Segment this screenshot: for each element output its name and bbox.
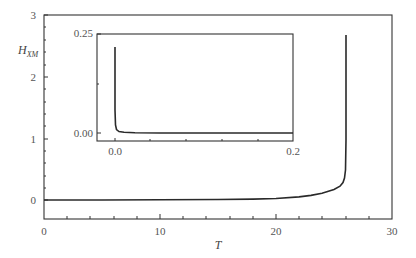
inset-y-tick-label: 0.25	[74, 27, 94, 39]
inset-plot-frame	[97, 34, 293, 141]
x-tick-label: 30	[387, 225, 399, 237]
inset-y-ticks	[97, 34, 101, 133]
y-axis-label-subscript: XM	[26, 50, 40, 59]
inset-curve	[115, 47, 293, 133]
y-axis-label: HXM	[17, 43, 40, 59]
x-tick-label: 0	[41, 225, 47, 237]
main-y-ticks	[44, 15, 48, 200]
main-x-tick-labels: 0 10 20 30	[41, 225, 398, 237]
y-tick-label: 2	[31, 71, 37, 83]
main-curve	[44, 35, 346, 200]
x-axis-label: T	[215, 238, 223, 252]
main-x-ticks	[67, 214, 369, 219]
chart: 0 1 2 3 0 10 20 30 HXM T 0.25 0.00 0.0 0…	[0, 0, 416, 258]
x-tick-label: 20	[271, 225, 283, 237]
main-plot-frame	[44, 15, 392, 219]
inset-x-tick-label: 0.2	[286, 145, 300, 157]
main-y-tick-labels: 0 1 2 3	[31, 9, 37, 206]
y-tick-label: 0	[31, 194, 37, 206]
inset-x-tick-label: 0.0	[108, 145, 122, 157]
inset-y-tick-label: 0.00	[74, 127, 94, 139]
y-tick-label: 1	[31, 133, 37, 145]
x-tick-label: 10	[155, 225, 167, 237]
inset-tick-labels: 0.25 0.00 0.0 0.2	[74, 27, 300, 157]
y-tick-label: 3	[31, 9, 37, 21]
